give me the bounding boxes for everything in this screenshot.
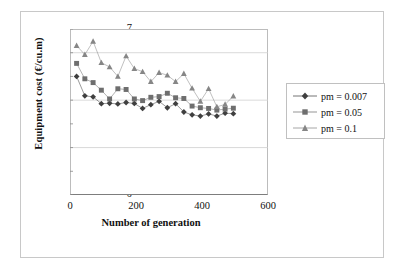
legend-item-2[interactable]: pm = 0.1 (287, 120, 384, 136)
legend-item-0[interactable]: pm = 0.007 (287, 88, 384, 104)
triangle-marker-icon (292, 121, 318, 135)
square-marker-icon (292, 105, 318, 119)
x-tick-label: 400 (185, 200, 219, 211)
legend-label-2: pm = 0.1 (321, 123, 357, 134)
x-tick-label: 200 (119, 200, 153, 211)
legend-label-0: pm = 0.007 (321, 91, 367, 102)
plot-area (70, 29, 268, 195)
chart-frame: Equipment cost (€/cu.m) Number of genera… (20, 11, 384, 258)
y-axis-title: Equipment cost (€/cu.m) (33, 9, 44, 179)
legend-label-1: pm = 0.05 (321, 107, 362, 118)
legend-item-1[interactable]: pm = 0.05 (287, 104, 384, 120)
diamond-marker-icon (292, 89, 318, 103)
legend-box: pm = 0.007 pm = 0.05 pm = 0.1 (286, 83, 385, 139)
x-tick-label: 0 (53, 200, 87, 211)
data-series-canvas (70, 29, 268, 195)
x-axis-title: Number of generation (31, 217, 271, 228)
x-tick-label: 600 (251, 200, 285, 211)
